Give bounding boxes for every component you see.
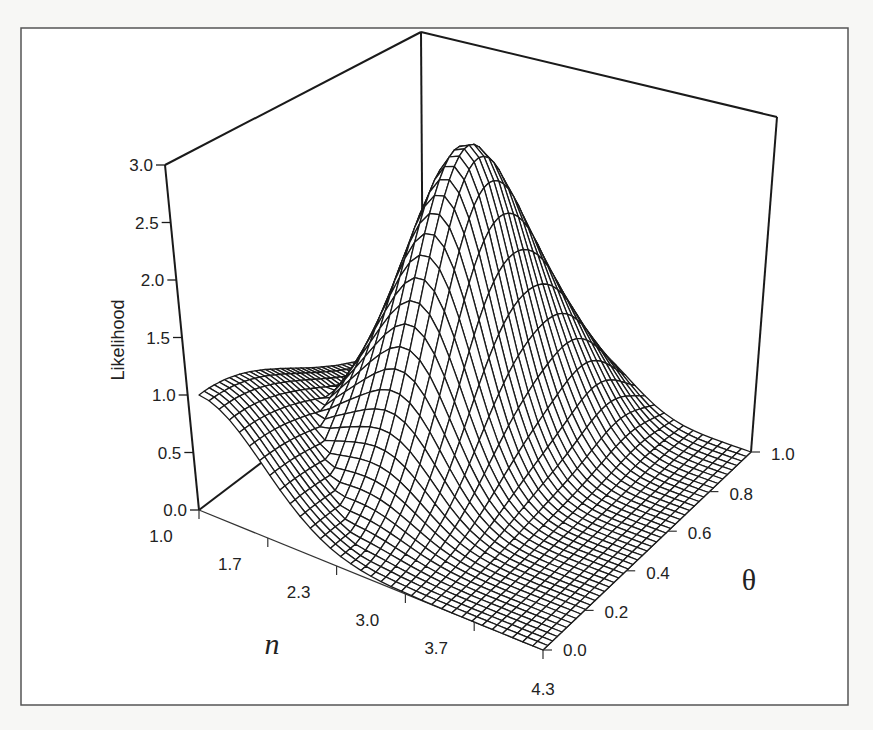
z-tick-label: 2.0 xyxy=(141,271,165,290)
z-tick-label: 2.5 xyxy=(135,214,159,233)
theta-tick-label: 0.4 xyxy=(646,564,670,583)
theta-axis-title: θ xyxy=(742,563,756,596)
z-tick-label: 3.0 xyxy=(129,156,153,175)
z-tick-label: 0.0 xyxy=(163,501,187,520)
n-tick-label: 1.0 xyxy=(149,527,173,546)
z-tick-label: 0.5 xyxy=(158,444,182,463)
theta-tick-label: 0.6 xyxy=(688,524,712,543)
theta-tick-label: 0.0 xyxy=(563,641,587,660)
z-tick-label: 1.0 xyxy=(152,386,176,405)
n-tick-label: 4.3 xyxy=(531,680,555,699)
theta-tick-label: 0.8 xyxy=(729,485,753,504)
theta-tick-label: 0.2 xyxy=(605,603,629,622)
n-tick-label: 3.7 xyxy=(424,639,448,658)
n-tick-label: 3.0 xyxy=(356,611,380,630)
n-tick-label: 1.7 xyxy=(218,555,242,574)
n-axis-title: n xyxy=(265,627,280,660)
likelihood-surface-figure: 0.00.51.01.52.02.53.0 1.01.72.33.03.74.3… xyxy=(0,0,873,730)
n-tick-label: 2.3 xyxy=(287,583,311,602)
theta-tick-label: 1.0 xyxy=(771,445,795,464)
z-axis-title: Likelihood xyxy=(108,299,128,380)
z-tick-label: 1.5 xyxy=(146,329,170,348)
